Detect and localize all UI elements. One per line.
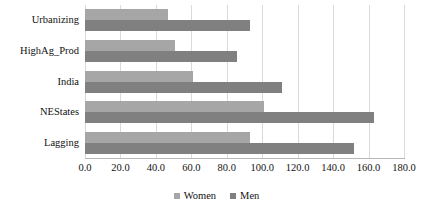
- plot-area: [85, 5, 404, 158]
- bar-men-nestates: [85, 112, 374, 123]
- category-label: HighAg_Prod: [0, 45, 79, 57]
- x-tick-label: 180.0: [392, 161, 416, 175]
- bar-women-lagging: [85, 132, 250, 143]
- x-tick-label: 140.0: [321, 161, 345, 175]
- legend-swatch-icon: [230, 193, 236, 199]
- bar-chart: UrbanizingHighAg_ProdIndiaNEStatesLaggin…: [0, 0, 433, 213]
- x-tick-label: 0.0: [78, 161, 91, 175]
- legend-swatch-icon: [174, 193, 180, 199]
- legend-label: Men: [240, 190, 259, 202]
- bar-men-urbanizing: [85, 20, 250, 31]
- bar-men-india: [85, 82, 282, 93]
- bar-women-urbanizing: [85, 9, 168, 20]
- x-tick-label: 120.0: [286, 161, 310, 175]
- bar-women-nestates: [85, 101, 264, 112]
- legend-item-men[interactable]: Men: [230, 190, 259, 202]
- value-axis-line: [85, 158, 405, 159]
- gridline-120.0: [298, 5, 299, 158]
- gridline-180.0: [404, 5, 405, 158]
- x-tick-label: 60.0: [182, 161, 200, 175]
- bar-men-highag_prod: [85, 51, 237, 62]
- x-tick-label: 160.0: [357, 161, 381, 175]
- x-tick-label: 40.0: [147, 161, 165, 175]
- value-axis: 0.020.040.060.080.0100.0120.0140.0160.01…: [85, 161, 404, 177]
- chart-legend: WomenMen: [0, 190, 433, 202]
- gridline-140.0: [333, 5, 334, 158]
- category-label: Lagging: [0, 137, 79, 149]
- category-axis: UrbanizingHighAg_ProdIndiaNEStatesLaggin…: [0, 5, 83, 158]
- legend-label: Women: [184, 190, 216, 202]
- gridline-160.0: [369, 5, 370, 158]
- category-label: NEStates: [0, 106, 79, 118]
- bar-women-highag_prod: [85, 40, 175, 51]
- x-tick-label: 100.0: [250, 161, 274, 175]
- x-tick-label: 20.0: [111, 161, 129, 175]
- category-label: India: [0, 76, 79, 88]
- bar-men-lagging: [85, 143, 354, 154]
- x-tick-label: 80.0: [218, 161, 236, 175]
- legend-item-women[interactable]: Women: [174, 190, 216, 202]
- bar-women-india: [85, 71, 193, 82]
- category-label: Urbanizing: [0, 14, 79, 26]
